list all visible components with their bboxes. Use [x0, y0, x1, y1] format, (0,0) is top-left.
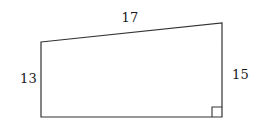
geometry-figure-canvas: 17 13 15 — [0, 0, 260, 125]
side-label-right: 15 — [232, 68, 249, 81]
quadrilateral-outline — [41, 23, 222, 117]
right-angle-marker-icon — [212, 107, 222, 117]
side-label-top: 17 — [0, 11, 260, 24]
side-label-left: 13 — [20, 72, 37, 85]
